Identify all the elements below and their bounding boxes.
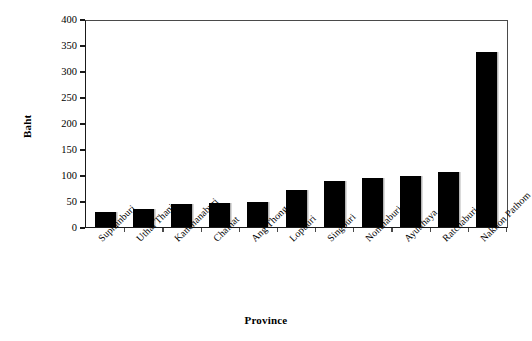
bar-chart: Baht 050100150200250300350400 Suphanburi… [0, 0, 532, 341]
x-tick-mark [239, 228, 240, 232]
bar [476, 52, 497, 227]
y-tick-label: 300 [40, 66, 77, 77]
y-tick-label: 350 [40, 40, 77, 51]
y-tick-label: 250 [40, 92, 77, 103]
x-tick-mark [353, 228, 354, 232]
y-tick-label: 0 [40, 222, 77, 233]
y-tick-label: 400 [40, 14, 77, 25]
y-tick-label: 150 [40, 144, 77, 155]
y-tick-label: 50 [40, 196, 77, 207]
y-tick-label: 200 [40, 118, 77, 129]
x-tick-mark [201, 228, 202, 232]
x-tick-mark [277, 228, 278, 232]
x-tick-mark [162, 228, 163, 232]
y-tick-label: 100 [40, 170, 77, 181]
x-axis-title: Province [0, 314, 532, 326]
x-tick-mark [468, 228, 469, 232]
x-tick-mark [124, 228, 125, 232]
x-tick-mark [315, 228, 316, 232]
x-tick-mark [506, 228, 507, 232]
x-tick-mark [391, 228, 392, 232]
bars-layer [86, 20, 507, 227]
x-tick-mark [430, 228, 431, 232]
